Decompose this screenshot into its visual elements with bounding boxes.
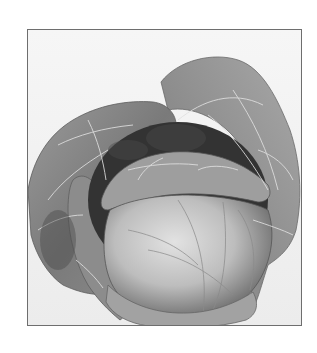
cabbage-image — [28, 30, 301, 325]
photo-frame — [27, 29, 302, 326]
